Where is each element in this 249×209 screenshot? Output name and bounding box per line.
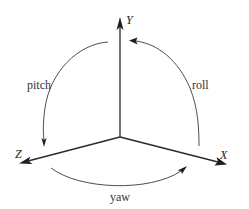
z-axis: Z xyxy=(15,137,120,164)
roll-label: roll xyxy=(192,78,209,92)
z-axis-label: Z xyxy=(15,147,22,161)
roll-rotation: roll xyxy=(129,38,209,147)
y-axis: Y xyxy=(117,13,135,137)
yaw-label: yaw xyxy=(110,190,130,204)
pitch-label: pitch xyxy=(27,78,51,92)
pitch-rotation: pitch xyxy=(27,42,108,147)
x-axis-label: X xyxy=(219,148,228,162)
x-axis: X xyxy=(120,137,228,166)
y-axis-label: Y xyxy=(126,13,134,27)
yaw-rotation: yaw xyxy=(51,166,187,204)
rotation-axes-diagram: Y Z X pitch roll yaw xyxy=(0,0,249,209)
